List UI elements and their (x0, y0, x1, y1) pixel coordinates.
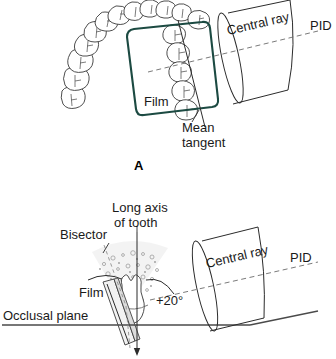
tooth-icon (169, 62, 192, 82)
angle-label: +20° (156, 293, 183, 308)
central-ray-label-a: Central ray (225, 9, 291, 38)
tooth-icon (188, 10, 210, 29)
mean-tangent-label-line1: Mean (182, 120, 215, 135)
bisector-label: Bisector (60, 227, 108, 242)
dental-radiography-figure: Film Mean tangent Central ray PID A (0, 0, 336, 359)
panel-a: Film Mean tangent Central ray PID A (61, 0, 331, 173)
panel-b: Bisector Long axis of tooth Film Occlusa… (2, 200, 318, 356)
figure-canvas: Film Mean tangent Central ray PID A (0, 0, 336, 359)
pid-label-a: PID (310, 18, 332, 33)
pid-cylinder-icon (187, 227, 264, 333)
mean-tangent-label-line2: tangent (182, 135, 226, 150)
occlusal-plane-label: Occlusal plane (3, 308, 88, 323)
panel-letter-a: A (134, 158, 144, 173)
tooth-icon (172, 81, 195, 101)
pid-label-b: PID (290, 250, 312, 265)
long-axis-label-line1: Long axis (112, 200, 168, 215)
central-ray-label-b: Central ray (204, 242, 270, 271)
film-label-b: Film (79, 285, 104, 300)
long-axis-label-line2: of tooth (114, 215, 157, 230)
film-label-a: Film (144, 94, 169, 109)
